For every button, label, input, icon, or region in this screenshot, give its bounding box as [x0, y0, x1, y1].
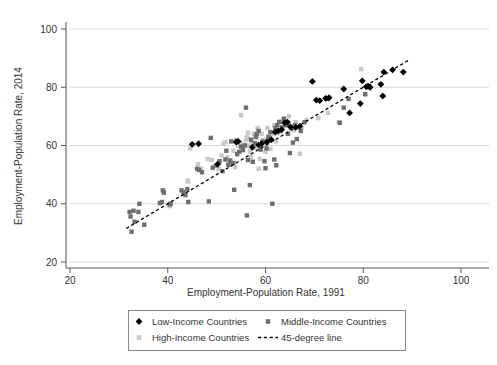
point-high-income-countries [248, 149, 252, 153]
point-middle-income-countries [291, 140, 295, 144]
point-high-income-countries [265, 126, 269, 130]
point-middle-income-countries [338, 121, 342, 125]
point-middle-income-countries [298, 129, 302, 133]
point-middle-income-countries [237, 150, 241, 154]
point-middle-income-countries [128, 214, 132, 218]
point-high-income-countries [274, 139, 278, 143]
point-high-income-countries [246, 130, 250, 134]
point-high-income-countries [256, 167, 260, 171]
point-middle-income-countries [183, 193, 187, 197]
data-points [127, 66, 406, 234]
y-tick-label: 40 [46, 198, 58, 209]
legend-label-45-degree-line: 45-degree line [281, 332, 342, 343]
point-middle-income-countries [207, 199, 211, 203]
point-high-income-countries [206, 157, 210, 161]
point-low-income-countries [195, 140, 202, 147]
chart-legend: Low-Income CountriesMiddle-Income Countr… [129, 311, 406, 351]
point-middle-income-countries [185, 187, 189, 191]
point-middle-income-countries [244, 105, 248, 109]
point-high-income-countries [186, 179, 190, 183]
legend-label-low-income-countries: Low-Income Countries [152, 316, 247, 327]
point-middle-income-countries [131, 209, 135, 213]
point-middle-income-countries [263, 166, 267, 170]
point-high-income-countries [223, 140, 227, 144]
point-high-income-countries [233, 165, 237, 169]
point-middle-income-countries [168, 202, 172, 206]
point-middle-income-countries [142, 223, 146, 227]
point-middle-income-countries [241, 148, 245, 152]
point-middle-income-countries [186, 200, 190, 204]
point-high-income-countries [326, 111, 330, 115]
point-low-income-countries [400, 69, 407, 76]
reference-line-45deg [126, 60, 409, 229]
point-high-income-countries [268, 147, 272, 151]
point-low-income-countries [346, 109, 353, 116]
point-low-income-countries [380, 69, 387, 76]
y-axis-tick-labels: 20406080100 [40, 24, 57, 268]
point-low-income-countries [357, 100, 364, 107]
y-tick-label: 20 [46, 257, 58, 268]
point-middle-income-countries [274, 163, 278, 167]
point-middle-income-countries [256, 129, 260, 133]
point-middle-income-countries [129, 230, 133, 234]
gridlines [70, 29, 489, 262]
point-middle-income-countries [132, 220, 136, 224]
point-low-income-countries [340, 86, 347, 93]
point-middle-income-countries [249, 137, 253, 141]
x-tick-label: 20 [64, 275, 76, 286]
point-middle-income-countries [232, 188, 236, 192]
point-middle-income-countries [295, 137, 299, 141]
point-low-income-countries [379, 93, 386, 100]
x-tick-label: 60 [260, 275, 272, 286]
point-middle-income-countries [209, 136, 213, 140]
point-high-income-countries [359, 67, 363, 71]
point-middle-income-countries [224, 149, 228, 153]
point-middle-income-countries [200, 170, 204, 174]
point-middle-income-countries [137, 202, 141, 206]
point-middle-income-countries [226, 163, 230, 167]
legend-label-high-income-countries: High-Income Countries [152, 332, 249, 343]
point-high-income-countries [196, 162, 200, 166]
point-low-income-countries [359, 77, 366, 84]
point-middle-income-countries [262, 159, 266, 163]
point-low-income-countries [309, 78, 316, 85]
point-high-income-countries [219, 153, 223, 157]
point-middle-income-countries [245, 213, 249, 217]
point-high-income-countries [257, 157, 261, 161]
point-high-income-countries [298, 151, 302, 155]
point-high-income-countries [239, 113, 243, 117]
point-middle-income-countries [243, 143, 247, 147]
point-middle-income-countries [277, 120, 281, 124]
x-tick-label: 40 [162, 275, 174, 286]
point-middle-income-countries [248, 183, 252, 187]
y-tick-label: 80 [46, 82, 58, 93]
y-tick-label: 100 [40, 24, 57, 35]
legend-label-middle-income-countries: Middle-Income Countries [281, 316, 387, 327]
point-middle-income-countries [342, 105, 346, 109]
point-middle-income-countries [264, 146, 268, 150]
point-middle-income-countries [363, 92, 367, 96]
point-middle-income-countries [223, 157, 227, 161]
point-middle-income-countries [136, 210, 140, 214]
point-high-income-countries [210, 158, 214, 162]
point-middle-income-countries [211, 165, 215, 169]
point-high-income-countries [316, 116, 320, 120]
point-low-income-countries [377, 81, 384, 88]
y-axis-title: Employment-Population Rate, 2014 [13, 67, 24, 225]
legend-marker-middle-income-countries [266, 319, 271, 324]
point-middle-income-countries [246, 158, 250, 162]
point-middle-income-countries [162, 190, 166, 194]
x-tick-label: 80 [358, 275, 370, 286]
point-middle-income-countries [127, 210, 131, 214]
point-middle-income-countries [270, 202, 274, 206]
chart-canvas: 20406080100 20406080100 Employment-Popul… [0, 0, 497, 365]
point-high-income-countries [287, 114, 291, 118]
point-middle-income-countries [229, 139, 233, 143]
point-middle-income-countries [288, 151, 292, 155]
point-middle-income-countries [272, 157, 276, 161]
point-high-income-countries [231, 149, 235, 153]
y-tick-label: 60 [46, 140, 58, 151]
point-middle-income-countries [160, 200, 164, 204]
x-tick-label: 100 [453, 275, 470, 286]
forty-five-degree-line [126, 60, 409, 229]
